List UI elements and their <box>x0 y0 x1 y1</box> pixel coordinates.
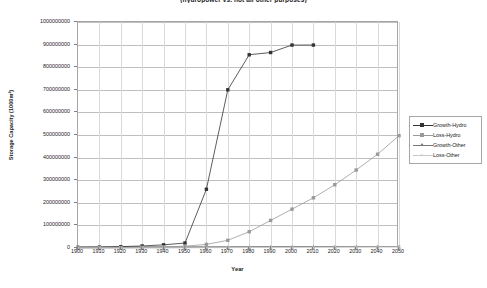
y-tick-label: 0 <box>67 244 70 250</box>
x-tick <box>398 247 399 250</box>
chart-legend: Growth-HydroLoss-HydroGrowth-Other×Loss-… <box>409 116 482 164</box>
x-tick <box>77 247 78 250</box>
x-tick <box>227 247 228 250</box>
legend-item-growth-other[interactable]: Growth-Other <box>412 140 479 150</box>
x-tick <box>184 247 185 250</box>
x-tick <box>141 247 142 250</box>
x-tick <box>163 247 164 250</box>
data-point <box>183 241 186 244</box>
x-tick <box>205 247 206 250</box>
data-point <box>397 134 400 137</box>
data-point <box>290 207 293 210</box>
y-tick-label: 1000000000 <box>40 18 70 24</box>
data-point <box>205 188 208 191</box>
data-point <box>333 183 336 186</box>
y-tick-label: 200000000 <box>43 199 70 205</box>
series-loss-hydro <box>76 134 400 249</box>
plot-area <box>77 21 398 247</box>
data-point <box>248 53 251 56</box>
data-point <box>226 239 229 242</box>
data-point <box>312 196 315 199</box>
y-tick-label: 700000000 <box>43 86 70 92</box>
x-tick <box>312 247 313 250</box>
y-axis-labels: 0100000000200000000300000000400000000500… <box>0 21 75 247</box>
legend-item-loss-other[interactable]: ×Loss-Other <box>412 150 479 160</box>
data-point <box>290 43 293 46</box>
legend-label: Loss-Other <box>433 151 460 160</box>
data-point <box>269 219 272 222</box>
y-tick-label: 800000000 <box>43 63 70 69</box>
y-tick-label: 900000000 <box>43 41 70 47</box>
legend-label: Loss-Hydro <box>433 131 461 140</box>
data-point <box>312 43 315 46</box>
x-tick <box>270 247 271 250</box>
legend-item-growth-hydro[interactable]: Growth-Hydro <box>412 120 479 130</box>
legend-marker-icon <box>413 121 433 130</box>
y-tick-label: 100000000 <box>43 221 70 227</box>
y-tick-label: 300000000 <box>43 176 70 182</box>
data-point <box>226 88 229 91</box>
x-axis-title: Year <box>77 266 398 272</box>
data-point <box>355 168 358 171</box>
series-layer <box>78 22 399 248</box>
x-tick <box>248 247 249 250</box>
series-line <box>78 136 399 248</box>
x-tick <box>98 247 99 250</box>
x-tick <box>355 247 356 250</box>
data-point <box>248 230 251 233</box>
x-tick <box>120 247 121 250</box>
series-line <box>78 45 313 247</box>
legend-label: Growth-Hydro <box>433 121 467 130</box>
series-growth-hydro <box>76 43 315 249</box>
legend-label: Growth-Other <box>433 141 466 150</box>
y-tick-label: 600000000 <box>43 108 70 114</box>
chart-title: (hydropower vs. not all other purposes) <box>0 0 487 3</box>
x-axis-labels: 1900191019201930194019501960197019801990… <box>77 248 398 260</box>
y-tick-label: 400000000 <box>43 154 70 160</box>
data-point <box>269 51 272 54</box>
data-point <box>376 153 379 156</box>
x-tick <box>377 247 378 250</box>
legend-item-loss-hydro[interactable]: Loss-Hydro <box>412 130 479 140</box>
y-tick-label: 500000000 <box>43 131 70 137</box>
legend-marker-icon <box>413 131 433 140</box>
chart-container: (hydropower vs. not all other purposes) … <box>0 0 487 288</box>
legend-marker-icon <box>413 141 433 150</box>
legend-marker-icon: × <box>413 151 433 160</box>
x-tick <box>334 247 335 250</box>
x-tick <box>291 247 292 250</box>
